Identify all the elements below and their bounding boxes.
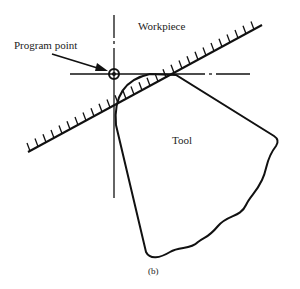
program-point-center: [112, 72, 116, 76]
tool-nose-diagram: Program point Workpiece Tool (b): [0, 0, 300, 289]
tool-outline: [116, 74, 278, 257]
tool-label: Tool: [172, 134, 192, 146]
program-point-label: Program point: [14, 39, 77, 51]
arrowhead-icon: [95, 63, 108, 71]
workpiece-label: Workpiece: [138, 20, 185, 32]
figure-caption: (b): [148, 266, 159, 276]
